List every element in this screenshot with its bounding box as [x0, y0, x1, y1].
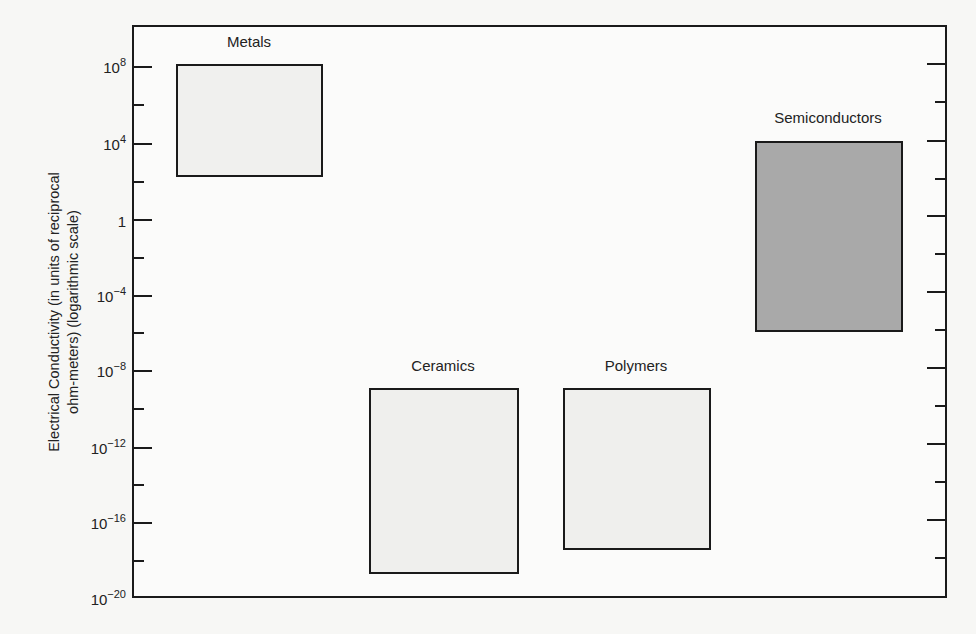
polymers-range-box [563, 388, 711, 550]
y-major-tick-right [927, 291, 947, 293]
y-major-tick [132, 219, 152, 221]
polymers-label: Polymers [605, 357, 668, 374]
y-minor-tick [132, 181, 144, 183]
y-tick-label: 104 [103, 133, 126, 153]
y-major-tick-right [927, 443, 947, 445]
y-minor-tick [132, 560, 144, 562]
y-tick-label: 108 [103, 56, 126, 76]
y-minor-tick-right [935, 178, 947, 180]
metals-range-box [176, 64, 323, 177]
y-minor-tick-right [935, 481, 947, 483]
ceramics-range-box [369, 388, 519, 574]
y-minor-tick-right [935, 253, 947, 255]
y-minor-tick [132, 104, 144, 106]
semiconductors-label: Semiconductors [774, 109, 882, 126]
y-major-tick [132, 66, 152, 68]
y-major-tick-right [927, 367, 947, 369]
semiconductors-range-box [755, 141, 903, 332]
y-major-tick [132, 522, 152, 524]
y-axis-title: Electrical Conductivity (in units of rec… [45, 172, 83, 452]
y-tick-label: 10−20 [91, 588, 126, 608]
y-minor-tick-right [935, 557, 947, 559]
y-minor-tick-right [935, 329, 947, 331]
y-tick-label: 10−8 [97, 360, 126, 380]
y-major-tick [132, 143, 152, 145]
y-major-tick [132, 447, 152, 449]
y-minor-tick-right [935, 405, 947, 407]
ceramics-label: Ceramics [411, 357, 474, 374]
y-axis-title-line2: ohm-meters) (logarithmic scale) [64, 172, 83, 452]
y-major-tick-right [927, 63, 947, 65]
y-major-tick-right [927, 215, 947, 217]
y-minor-tick-right [935, 101, 947, 103]
y-axis-title-line1: Electrical Conductivity (in units of rec… [45, 172, 64, 452]
y-major-tick [132, 370, 152, 372]
y-major-tick [132, 295, 152, 297]
y-major-tick-right [927, 519, 947, 521]
y-minor-tick [132, 408, 144, 410]
metals-label: Metals [227, 33, 271, 50]
y-tick-label: 1 [118, 210, 126, 230]
y-tick-label: 10−16 [91, 512, 126, 532]
y-minor-tick [132, 257, 144, 259]
y-tick-label: 10−4 [97, 285, 126, 305]
y-tick-label: 10−12 [91, 437, 126, 457]
y-minor-tick [132, 332, 144, 334]
y-major-tick-right [927, 140, 947, 142]
y-minor-tick [132, 484, 144, 486]
